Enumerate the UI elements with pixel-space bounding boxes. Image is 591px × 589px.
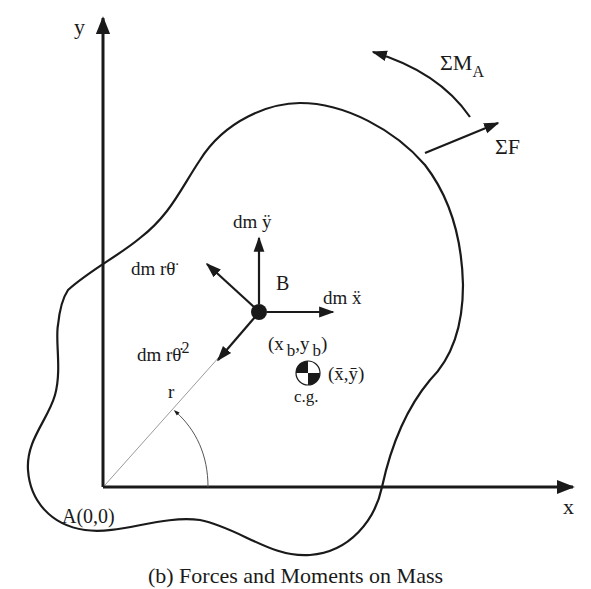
moment-label: ΣMA: [440, 52, 484, 74]
y-inertia-label: dm ÿ: [233, 212, 272, 231]
coord-close: ): [321, 333, 327, 354]
centripetal-power: 2: [181, 339, 189, 356]
radius-line: [105, 356, 220, 485]
y-axis-label: y: [74, 16, 85, 38]
theta-arc: [176, 412, 208, 487]
coord-x-sub: b: [287, 341, 296, 360]
figure-caption: (b) Forces and Moments on Mass: [0, 563, 591, 589]
moment-subscript: A: [472, 63, 484, 80]
origin-label: A(0,0): [62, 506, 115, 526]
x-inertia-label: dm ẍ: [323, 288, 362, 307]
force-label: ΣF: [495, 136, 520, 158]
mass-point-b: [251, 304, 267, 320]
moment-symbol: ΣM: [440, 50, 472, 75]
cg-label: c.g.: [294, 388, 319, 405]
coord-comma: ,y: [295, 333, 309, 354]
centripetal-label: dm rθ̇2: [137, 345, 189, 364]
coord-open: (x: [268, 333, 284, 354]
tangential-label: dm rθ̈: [131, 259, 175, 278]
point-b-label: B: [276, 273, 289, 293]
cg-symbol: [296, 361, 320, 385]
radius-label: r: [168, 382, 174, 401]
coord-y-sub: b: [313, 341, 322, 360]
point-b-coords: (xb,yb): [268, 334, 327, 353]
tangential-arrow: [207, 264, 254, 307]
centripetal-arrow: [218, 317, 255, 360]
centripetal-base: dm rθ̇: [137, 344, 181, 365]
x-axis-label: x: [563, 496, 574, 518]
force-arrow: [425, 123, 498, 153]
cg-coords: (x̄,ȳ): [328, 364, 364, 383]
